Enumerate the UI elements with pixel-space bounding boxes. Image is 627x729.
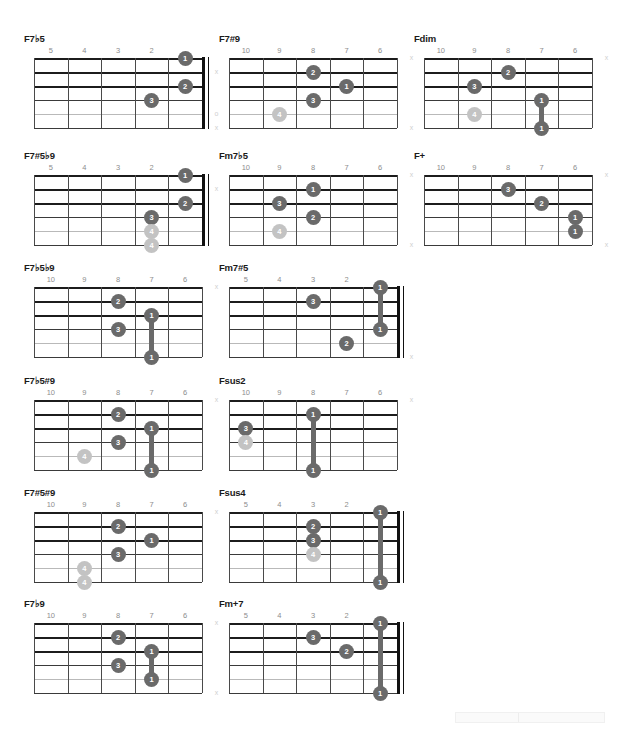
chord-diagram[interactable]: Fm7♭51098761324xx [217,150,413,262]
string-line [34,470,202,471]
finger-dot[interactable]: 1 [373,686,388,701]
finger-dot[interactable]: 1 [144,672,159,687]
finger-dot[interactable]: 3 [306,294,321,309]
fret-line [135,623,136,693]
chord-diagram[interactable]: F7♭5♭91098762131x [22,262,218,374]
fret-number: 5 [41,46,61,56]
finger-dot[interactable]: 3 [144,93,159,108]
finger-dot[interactable]: 1 [144,533,159,548]
finger-dot[interactable]: 1 [373,505,388,520]
finger-dot[interactable]: 1 [306,407,321,422]
barre [378,512,383,582]
chord-diagram[interactable]: F7#5#910987621344x [22,487,218,599]
finger-dot[interactable]: 1 [373,280,388,295]
finger-dot[interactable]: 1 [144,421,159,436]
chord-diagram[interactable]: F7♭5#910987621341x [22,375,218,487]
finger-dot[interactable]: 4 [272,107,287,122]
chord-diagram[interactable]: F7#5♭9543212344x [22,150,218,262]
finger-dot[interactable]: 1 [144,308,159,323]
chord-diagram[interactable]: Fsus21098761341x [217,375,413,487]
fret-line [168,287,169,357]
finger-dot[interactable]: 3 [501,182,516,197]
finger-dot[interactable]: 4 [467,107,482,122]
finger-dot[interactable]: 3 [111,322,126,337]
finger-dot[interactable]: 2 [339,336,354,351]
finger-dot[interactable]: 2 [306,519,321,534]
finger-dot[interactable]: 2 [306,65,321,80]
finger-dot[interactable]: 4 [272,224,287,239]
finger-dot[interactable]: 4 [238,435,253,450]
finger-dot[interactable]: 1 [534,121,549,136]
string-line [34,72,202,74]
chord-diagram[interactable]: F7♭55432123xox [22,33,218,145]
finger-dot[interactable]: 1 [144,463,159,478]
finger-dot[interactable]: 3 [144,210,159,225]
finger-dot[interactable]: 3 [272,196,287,211]
chord-diagram[interactable]: F+1098763211xx [412,150,608,262]
finger-dot[interactable]: 1 [178,51,193,66]
finger-dot[interactable]: 2 [534,196,549,211]
finger-dot[interactable]: 1 [568,224,583,239]
chord-diagram[interactable]: F7♭91098762131xx [22,598,218,710]
finger-dot[interactable]: 2 [501,65,516,80]
fret-number: 10 [236,46,256,56]
finger-dot[interactable]: 4 [144,238,159,253]
fret-line [592,58,593,128]
chord-diagram[interactable]: Fsus4543212341 [217,487,413,599]
finger-dot[interactable]: 1 [534,93,549,108]
finger-dot[interactable]: 2 [178,79,193,94]
fret-line [458,58,459,128]
chord-diagram[interactable]: Fdim10987623141x [412,33,608,145]
finger-dot[interactable]: 3 [467,79,482,94]
finger-dot[interactable]: 3 [111,435,126,450]
finger-dot[interactable]: 1 [178,168,193,183]
fret-number: 7 [337,163,357,173]
finger-dot[interactable]: 3 [306,630,321,645]
chord-diagram[interactable]: F7#91098762134xx [217,33,413,145]
string-line [424,58,592,60]
finger-dot[interactable]: 1 [144,350,159,365]
fret-line [101,287,102,357]
fret-line [68,400,69,470]
fret-line [296,287,297,357]
finger-dot[interactable]: 3 [306,533,321,548]
finger-dot[interactable]: 2 [178,196,193,211]
fret-number: 2 [337,275,357,285]
finger-dot[interactable]: 3 [111,658,126,673]
finger-dot[interactable]: 1 [373,616,388,631]
fret-number-row: 5432 [229,500,397,511]
fret-line [491,58,492,128]
chord-diagram[interactable]: Fm+754321321 [217,598,413,710]
finger-dot[interactable]: 2 [111,630,126,645]
fret-number: 3 [108,46,128,56]
finger-dot[interactable]: 4 [77,575,92,590]
finger-dot[interactable]: 1 [144,644,159,659]
string-line [229,245,397,246]
fret-number: 7 [142,611,162,621]
finger-dot[interactable]: 3 [306,93,321,108]
fretboard-grid: 123xox [34,58,202,128]
fret-line [397,58,398,128]
finger-dot[interactable]: 1 [373,575,388,590]
finger-dot[interactable]: 4 [144,224,159,239]
finger-dot[interactable]: 1 [373,322,388,337]
finger-dot[interactable]: 2 [111,407,126,422]
finger-dot[interactable]: 1 [339,79,354,94]
finger-dot[interactable]: 4 [306,547,321,562]
finger-dot[interactable]: 1 [306,182,321,197]
finger-dot[interactable]: 2 [111,519,126,534]
finger-dot[interactable]: 2 [111,294,126,309]
fret-line [229,175,230,245]
fret-number: 10 [41,611,61,621]
chord-diagram[interactable]: Fm7#554321312x [217,262,413,374]
finger-dot[interactable]: 3 [111,547,126,562]
finger-dot[interactable]: 1 [568,210,583,225]
finger-dot[interactable]: 3 [238,421,253,436]
finger-dot[interactable]: 2 [306,210,321,225]
finger-dot[interactable]: 4 [77,449,92,464]
fret-line [202,512,203,582]
finger-dot[interactable]: 4 [77,561,92,576]
finger-dot[interactable]: 2 [339,644,354,659]
finger-dot[interactable]: 1 [306,463,321,478]
string-line [34,189,202,191]
